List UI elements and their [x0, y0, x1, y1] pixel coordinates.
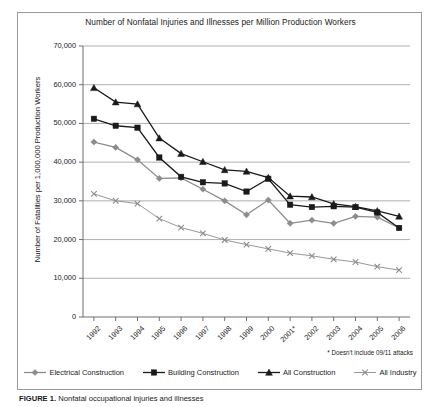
- legend-item-electrical-construction[interactable]: Electrical Construction: [24, 368, 124, 377]
- diamond-marker-icon: [24, 368, 46, 377]
- triangle-marker-icon: [258, 368, 280, 377]
- legend-item-all-construction[interactable]: All Construction: [258, 368, 336, 377]
- legend-label: Building Construction: [168, 368, 239, 377]
- figure-container: Number of Nonfatal Injuries and Illnesse…: [0, 0, 439, 407]
- series-layer: [91, 84, 403, 273]
- y-tick-label: 70,000: [18, 41, 76, 50]
- y-tick-label: 30,000: [18, 196, 76, 205]
- axes: [83, 46, 410, 317]
- chart-frame: Number of Nonfatal Injuries and Illnesse…: [17, 12, 422, 390]
- y-tick-label: 20,000: [18, 235, 76, 244]
- footnote: * Doesn't include 09/11 attacks: [327, 349, 413, 356]
- x-tick-marks: [94, 317, 399, 321]
- y-tick-label: 60,000: [18, 80, 76, 89]
- legend-label: All Industry: [379, 368, 416, 377]
- legend-label: All Construction: [283, 368, 336, 377]
- y-tick-label: 0: [18, 312, 76, 321]
- gridlines: [83, 46, 410, 278]
- y-tick-marks: [79, 46, 83, 317]
- y-tick-label: 40,000: [18, 157, 76, 166]
- series-all-construction: [91, 84, 403, 219]
- y-tick-label: 50,000: [18, 118, 76, 127]
- square-marker-icon: [143, 368, 165, 377]
- legend-item-all-industry[interactable]: All Industry: [354, 368, 416, 377]
- figure-caption-label: FIGURE 1.: [19, 394, 56, 403]
- legend-item-building-construction[interactable]: Building Construction: [143, 368, 239, 377]
- legend-label: Electrical Construction: [49, 368, 124, 377]
- figure-caption: FIGURE 1. Nonfatal occupational injuries…: [19, 394, 203, 403]
- series-electrical-construction: [91, 139, 402, 231]
- figure-caption-text: Nonfatal occupational injuries and illne…: [58, 394, 203, 403]
- x-marker-icon: [354, 368, 376, 377]
- chart-legend: Electrical ConstructionBuilding Construc…: [18, 368, 423, 377]
- y-tick-label: 10,000: [18, 273, 76, 282]
